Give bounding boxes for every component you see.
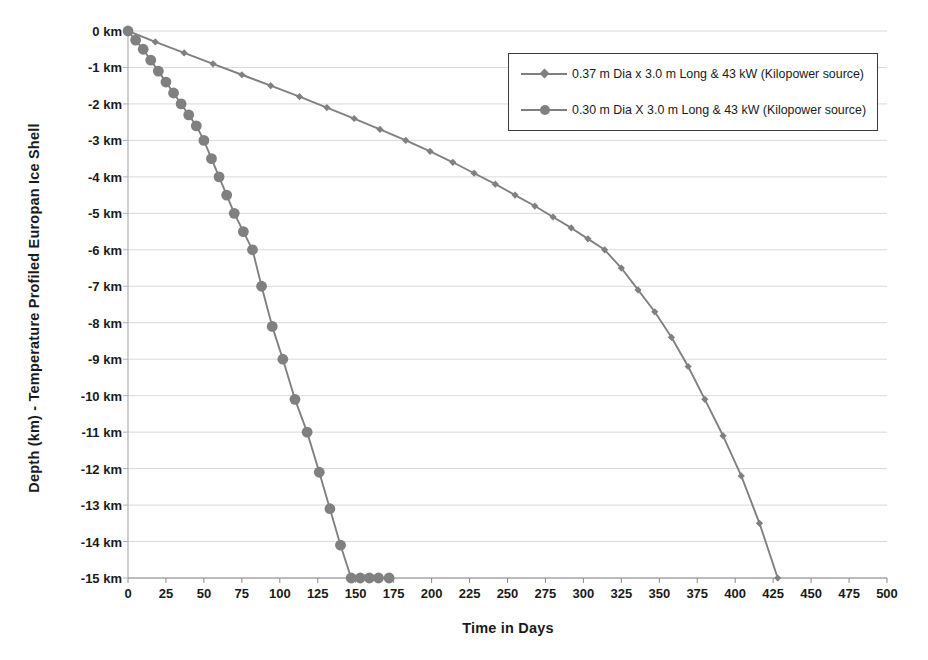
data-point-marker-diamond bbox=[238, 71, 245, 78]
data-point-marker-circle bbox=[221, 190, 232, 201]
legend-item-0: 0.37 m Dia x 3.0 m Long & 43 kW (Kilopow… bbox=[521, 60, 864, 88]
data-point-marker-circle bbox=[335, 540, 346, 551]
data-point-marker-diamond bbox=[426, 148, 433, 155]
legend-item-1: 0.30 m Dia X 3.0 m Long & 43 kW (Kilopow… bbox=[521, 96, 866, 124]
data-point-marker-circle bbox=[176, 99, 187, 110]
data-point-marker-circle bbox=[229, 208, 240, 219]
data-point-marker-diamond bbox=[756, 520, 763, 527]
data-point-marker-circle bbox=[324, 503, 335, 514]
data-point-marker-circle bbox=[183, 109, 194, 120]
data-point-marker-diamond bbox=[376, 126, 383, 133]
data-point-marker-circle bbox=[214, 171, 225, 182]
data-point-marker-diamond bbox=[471, 170, 478, 177]
data-point-marker-circle bbox=[130, 35, 141, 46]
data-point-marker-circle bbox=[123, 26, 134, 37]
series-line-1 bbox=[128, 31, 389, 578]
data-point-marker-circle bbox=[256, 281, 267, 292]
chart-legend: 0.37 m Dia x 3.0 m Long & 43 kW (Kilopow… bbox=[508, 53, 878, 131]
data-point-marker-diamond bbox=[323, 104, 330, 111]
data-point-marker-circle bbox=[314, 467, 325, 478]
data-point-marker-diamond bbox=[296, 93, 303, 100]
data-point-marker-diamond bbox=[719, 432, 726, 439]
x-axis-title: Time in Days bbox=[128, 620, 888, 636]
data-point-marker-circle bbox=[138, 44, 149, 55]
data-point-marker-diamond bbox=[351, 115, 358, 122]
legend-marker-diamond-icon bbox=[521, 67, 567, 81]
data-point-marker-circle bbox=[302, 427, 313, 438]
data-point-marker-diamond bbox=[701, 396, 708, 403]
data-point-marker-circle bbox=[168, 88, 179, 99]
legend-label-0: 0.37 m Dia x 3.0 m Long & 43 kW (Kilopow… bbox=[572, 67, 864, 81]
legend-marker-circle-icon bbox=[521, 103, 567, 117]
data-point-marker-circle bbox=[191, 120, 202, 131]
legend-label-1: 0.30 m Dia X 3.0 m Long & 43 kW (Kilopow… bbox=[572, 103, 866, 117]
data-point-marker-diamond bbox=[449, 159, 456, 166]
data-point-marker-circle bbox=[145, 55, 156, 66]
x-tick-label: 500 bbox=[857, 586, 917, 601]
data-point-marker-diamond bbox=[181, 49, 188, 56]
data-point-marker-circle bbox=[161, 77, 172, 88]
chart-container: Depth (km) - Temperature Profiled Europa… bbox=[0, 0, 928, 660]
data-point-marker-circle bbox=[247, 244, 258, 255]
data-point-marker-circle bbox=[206, 153, 217, 164]
data-point-marker-diamond bbox=[267, 82, 274, 89]
data-point-marker-diamond bbox=[209, 60, 216, 67]
data-point-marker-circle bbox=[384, 573, 395, 584]
data-point-marker-circle bbox=[199, 135, 210, 146]
data-point-marker-circle bbox=[267, 321, 278, 332]
data-point-marker-diamond bbox=[738, 472, 745, 479]
data-point-marker-circle bbox=[373, 573, 384, 584]
data-point-marker-diamond bbox=[402, 137, 409, 144]
data-point-marker-circle bbox=[290, 394, 301, 405]
data-point-marker-diamond bbox=[774, 574, 781, 581]
data-point-marker-circle bbox=[277, 354, 288, 365]
data-point-marker-diamond bbox=[492, 181, 499, 188]
data-point-marker-circle bbox=[238, 226, 249, 237]
data-point-marker-circle bbox=[153, 66, 164, 77]
data-point-marker-diamond bbox=[511, 192, 518, 199]
data-point-marker-diamond bbox=[152, 38, 159, 45]
